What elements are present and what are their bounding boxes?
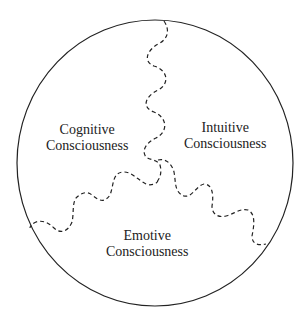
diagram-graphic [0,0,304,322]
region-label-emotive: Emotive Consciousness [106,228,188,260]
label-line-2: Consciousness [106,244,188,260]
boundary-top [144,21,167,180]
label-line-2: Consciousness [184,136,266,152]
outer-circle [17,20,293,306]
consciousness-diagram: Cognitive Consciousness Intuitive Consci… [0,0,304,322]
label-line-2: Consciousness [46,138,128,154]
region-label-intuitive: Intuitive Consciousness [184,120,266,152]
region-label-cognitive: Cognitive Consciousness [46,122,128,154]
label-line-1: Emotive [106,228,188,244]
boundary-left [30,172,158,231]
label-line-1: Cognitive [46,122,128,138]
label-line-1: Intuitive [184,120,266,136]
